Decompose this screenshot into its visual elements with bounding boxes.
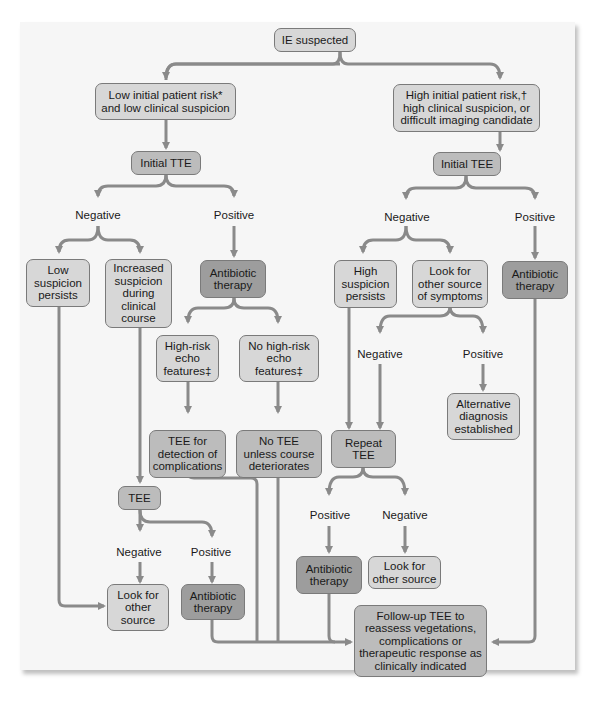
label-tte-positive: Positive	[214, 209, 254, 221]
node-tee-complications: TEE for detection of complications	[149, 430, 226, 478]
node-antibiotic-therapy-tee: Antibiotic therapy	[502, 261, 568, 299]
node-ie-suspected: IE suspected	[274, 28, 356, 52]
node-antibiotic-therapy-bottom: Antibiotic therapy	[181, 584, 245, 620]
node-high-risk-echo: High-risk echo features‡	[156, 335, 219, 382]
label-tee-positive: Positive	[515, 211, 555, 223]
node-initial-tte: Initial TTE	[131, 151, 201, 175]
label-symptoms-positive: Positive	[463, 348, 503, 360]
node-low-risk: Low initial patient risk* and low clinic…	[95, 83, 236, 120]
node-high-risk: High initial patient risk,† high clinica…	[393, 84, 540, 132]
node-look-other-symptoms: Look for other source of symptoms	[412, 260, 488, 308]
node-look-other-source-right: Look for other source	[368, 556, 441, 589]
node-repeat-tee: Repeat TEE	[331, 430, 396, 468]
node-followup-tee: Follow-up TEE to reassess vegetations, c…	[354, 605, 487, 677]
label-repeat-negative: Negative	[382, 509, 427, 521]
node-tee: TEE	[118, 486, 161, 510]
node-high-suspicion-persists: High suspicion persists	[334, 260, 397, 308]
label-repeat-positive: Positive	[310, 509, 350, 521]
node-look-other-source-left: Look for other source	[107, 584, 169, 631]
label-tee2-negative: Negative	[116, 546, 161, 558]
node-antibiotic-therapy-repeat: Antibiotic therapy	[296, 556, 362, 594]
node-increased-suspicion: Increased suspicion during clinical cour…	[105, 259, 172, 328]
node-antibiotic-therapy-tte: Antibiotic therapy	[200, 260, 266, 298]
label-tee-negative: Negative	[384, 211, 429, 223]
label-symptoms-negative: Negative	[357, 348, 402, 360]
node-low-suspicion-persists: Low suspicion persists	[26, 259, 90, 307]
label-tee2-positive: Positive	[191, 546, 231, 558]
node-alternative-diagnosis: Alternative diagnosis established	[447, 393, 520, 440]
node-no-tee: No TEE unless course deteriorates	[236, 430, 322, 478]
node-initial-tee: Initial TEE	[433, 152, 501, 176]
node-no-high-risk-echo: No high-risk echo features‡	[239, 335, 319, 382]
label-tte-negative: Negative	[75, 209, 120, 221]
